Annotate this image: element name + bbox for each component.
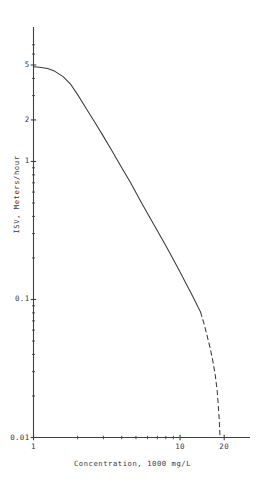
y-tick-label: 0.01 [10,434,29,442]
y-tick-label: 5 [25,61,30,69]
y-axis-title: ISV, Meters/hour [12,140,21,250]
data-series-group [34,67,221,438]
y-tick-label: 2 [25,116,30,124]
x-tick-label: 1 [20,443,48,451]
axes-group [34,27,251,438]
y-tick-label: 1 [25,157,30,165]
series-line-extrapolated [201,312,221,437]
series-line-measured [34,67,201,312]
y-tick-label: 0.1 [15,295,29,303]
x-tick-label: 10 [166,443,194,451]
chart-figure: 5210.10.0111020 Concentration, 1000 mg/L… [0,0,265,485]
plot-canvas [0,0,265,485]
axis-ticks-group [31,45,224,440]
x-tick-label: 20 [210,443,238,451]
x-axis-title: Concentration, 1000 mg/L [0,459,265,468]
